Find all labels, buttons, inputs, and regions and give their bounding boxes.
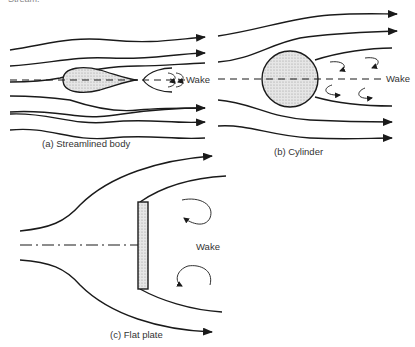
flow-diagrams	[0, 0, 415, 347]
caption-cylinder: (b) Cylinder	[274, 146, 323, 157]
cylinder-figure	[218, 14, 397, 139]
wake-label-a: Wake	[186, 74, 210, 85]
caption-streamlined-body: (a) Streamlined body	[42, 138, 130, 149]
wake-vortices-b	[326, 58, 378, 99]
wake-label-c: Wake	[196, 241, 220, 252]
caption-flat-plate: (c) Flat plate	[110, 329, 163, 340]
wake-label-b: Wake	[386, 73, 410, 84]
